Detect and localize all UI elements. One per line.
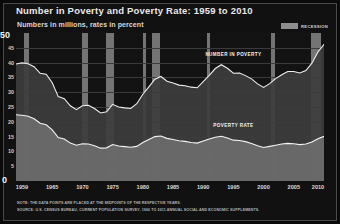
x-tick-label: 2000	[257, 184, 269, 190]
y-tick-label: 20	[0, 119, 14, 125]
y-axis-max-label: 50	[0, 30, 10, 40]
y-tick-label: 35	[0, 74, 14, 80]
y-tick-label: 15	[0, 134, 14, 140]
x-tick-label: 1985	[167, 184, 179, 190]
series-annotation-rate: POVERTY RATE	[213, 122, 253, 127]
recession-swatch	[281, 23, 298, 29]
chart-note-line1: NOTE: THE DATA POINTS ARE PLACED AT THE …	[17, 201, 181, 205]
x-tick-label: 1959	[16, 184, 28, 190]
x-tick-label: 1990	[197, 184, 209, 190]
series-annotation-number: NUMBER IN POVERTY	[205, 51, 261, 56]
x-tick-label: 1995	[227, 184, 239, 190]
x-tick-label: 2010	[312, 184, 324, 190]
y-tick-label: 5	[0, 163, 14, 169]
chart-subtitle: Numbers in millions, rates in percent	[17, 21, 144, 28]
x-tick-label: 1965	[46, 184, 58, 190]
y-tick-label: 45	[0, 45, 14, 51]
legend: RECESSION	[281, 23, 328, 29]
y-tick-label: 10	[0, 148, 14, 154]
x-tick-label: 1970	[76, 184, 88, 190]
x-tick-label: 2005	[288, 184, 300, 190]
y-axis-min-label: 0	[2, 175, 7, 185]
y-tick-label: 40	[0, 60, 14, 66]
chart-note-line2: SOURCE: U.S. CENSUS BUREAU, CURRENT POPU…	[17, 208, 259, 212]
x-tick-label: 1980	[137, 184, 149, 190]
y-tick-label: 25	[0, 104, 14, 110]
poverty-chart-figure: Number in Poverty and Poverty Rate: 1959…	[0, 0, 340, 224]
recession-legend-label: RECESSION	[301, 24, 328, 29]
x-tick-label: 1975	[106, 184, 118, 190]
chart-title: Number in Poverty and Poverty Rate: 1959…	[16, 5, 253, 16]
plot-area: NUMBER IN POVERTYPOVERTY RATE	[16, 33, 324, 181]
y-tick-label: 30	[0, 89, 14, 95]
